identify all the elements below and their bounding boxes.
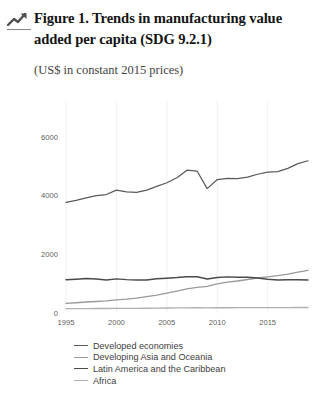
y-axis-tick-label: 2000 <box>41 250 58 259</box>
legend-label: Latin America and the Caribbean <box>93 364 225 374</box>
legend-label: Africa <box>93 376 116 386</box>
legend-swatch <box>74 368 88 369</box>
x-axis-tick-label: 1995 <box>58 318 75 327</box>
y-axis-tick-label: 4000 <box>41 191 58 200</box>
legend-label: Developing Asia and Oceania <box>93 352 212 362</box>
y-axis-tick-label: 6000 <box>41 133 58 142</box>
legend-item[interactable]: Developing Asia and Oceania <box>74 352 314 364</box>
legend-item[interactable]: Africa <box>74 375 314 387</box>
x-axis-tick-label: 2015 <box>259 318 276 327</box>
chart-series-group <box>66 161 308 309</box>
legend-swatch <box>74 357 88 358</box>
legend-swatch <box>74 345 88 346</box>
y-axis-tick-label: 0 <box>54 309 58 318</box>
series-line <box>66 308 308 309</box>
chart-legend: Developed economiesDeveloping Asia and O… <box>74 340 314 386</box>
series-line <box>66 161 308 203</box>
footer-cut-text <box>28 396 228 405</box>
legend-label: Developed economies <box>93 341 183 351</box>
trending-up-icon <box>6 12 32 32</box>
legend-item[interactable]: Developed economies <box>74 340 314 352</box>
legend-item[interactable]: Latin America and the Caribbean <box>74 363 314 375</box>
y-axis-tick-labels: 0200040006000 <box>41 133 58 318</box>
x-axis-tick-label: 2000 <box>108 318 125 327</box>
series-line <box>66 270 308 303</box>
series-line <box>66 277 308 280</box>
figure-subtitle: (US$ in constant 2015 prices) <box>34 62 310 78</box>
x-axis-tick-label: 2005 <box>158 318 175 327</box>
legend-swatch <box>74 380 88 381</box>
x-axis-tick-labels: 19952000200520102015 <box>58 318 277 327</box>
x-axis-tick-label: 2010 <box>209 318 226 327</box>
line-chart: 0200040006000 19952000200520102015 <box>0 98 316 328</box>
page-title: Figure 1. Trends in manufacturing value … <box>34 8 310 50</box>
